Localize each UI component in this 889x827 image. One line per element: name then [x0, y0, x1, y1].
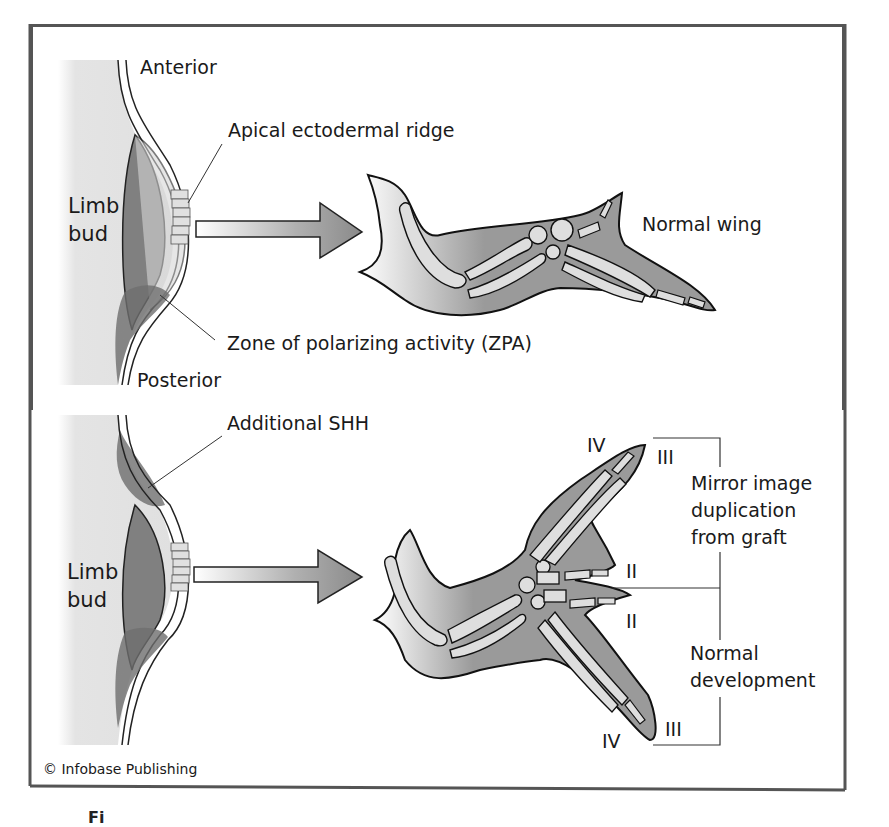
- zpa-label: Zone of polarizing activity (ZPA): [227, 333, 532, 355]
- limb-bud-label-line2: bud: [68, 222, 108, 246]
- aer-cells: [171, 190, 190, 244]
- mirror-duplication-label-line1: Mirror image: [691, 473, 812, 495]
- normal-development-label-line2: development: [690, 670, 815, 692]
- additional-shh-label: Additional SHH: [227, 413, 369, 435]
- digit-label-ii-lower: II: [626, 610, 637, 632]
- normal-development-label-line1: Normal: [690, 643, 759, 665]
- digit-label-iv-bottom: IV: [602, 730, 621, 752]
- mirror-duplication-label-line2: duplication: [691, 500, 796, 522]
- aer-label: Apical ectodermal ridge: [228, 120, 455, 142]
- digit-label-iii-bottom: III: [665, 718, 682, 740]
- duplicated-wing-illustration: [375, 445, 656, 740]
- figure-caption-fragment: Fi: [88, 808, 104, 827]
- limb-bud-label-line1: Limb: [67, 560, 118, 584]
- mirror-duplication-label-line3: from graft: [691, 527, 787, 549]
- digit-label-iv-top: IV: [587, 434, 606, 456]
- anterior-label: Anterior: [140, 57, 217, 79]
- aer-cells: [171, 543, 190, 591]
- posterior-label: Posterior: [137, 370, 221, 392]
- normal-wing-illustration: [360, 175, 715, 315]
- copyright-notice: © Infobase Publishing: [43, 761, 197, 777]
- normal-wing-label: Normal wing: [642, 214, 762, 236]
- digit-label-ii-upper: II: [626, 560, 637, 582]
- zpa-region: [115, 628, 168, 728]
- digit-label-iii-top: III: [657, 446, 674, 468]
- bottom-arrow-icon: [194, 550, 362, 603]
- top-arrow-icon: [196, 203, 362, 258]
- limb-bud-label-line2: bud: [67, 588, 107, 612]
- limb-bud-label-line1: Limb: [68, 194, 119, 218]
